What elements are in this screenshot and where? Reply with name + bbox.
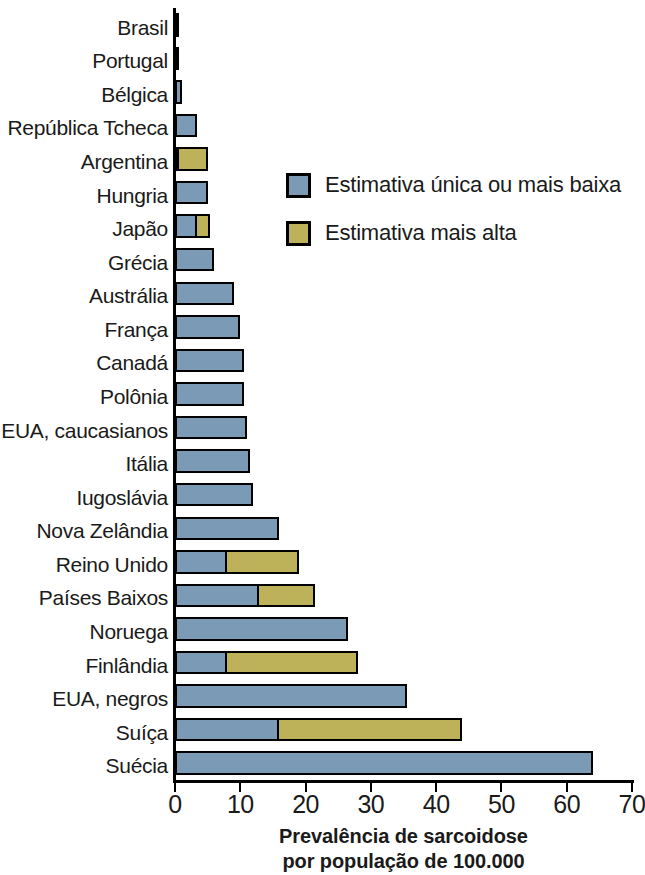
category-label: Nova Zelândia <box>0 520 168 541</box>
category-label: Portugal <box>0 50 168 71</box>
category-label: República Tcheca <box>0 117 168 138</box>
bar-row: França <box>0 310 638 344</box>
bar-row: Suíça <box>0 713 638 747</box>
x-axis-tick-label: 0 <box>168 790 181 819</box>
category-label: Grécia <box>0 252 168 273</box>
x-axis-tick-label: 20 <box>292 790 319 819</box>
bar-stack <box>175 718 462 741</box>
category-label: Noruega <box>0 621 168 642</box>
x-axis-tick-label: 40 <box>423 790 450 819</box>
bar-segment-low-estimate <box>175 416 247 439</box>
bar-row: Nova Zelândia <box>0 511 638 545</box>
bar-segment-low-estimate <box>175 315 240 338</box>
bar-segment-low-estimate <box>175 248 214 271</box>
bar-row: Suécia <box>0 746 638 780</box>
bar-row: EUA, negros <box>0 679 638 713</box>
bar-row: Austrália <box>0 277 638 311</box>
legend-swatch-low-estimate-icon <box>286 173 311 198</box>
bar-stack <box>175 282 234 305</box>
bar-row: Bélgica <box>0 75 638 109</box>
category-label: EUA, caucasianos <box>0 420 168 441</box>
legend-item-high-estimate: Estimativa mais alta <box>286 220 621 246</box>
category-label: Países Baixos <box>0 587 168 608</box>
bar-segment-low-estimate <box>175 651 227 674</box>
bar-row: República Tcheca <box>0 109 638 143</box>
bar-row: EUA, caucasianos <box>0 411 638 445</box>
x-axis-tick-label: 70 <box>619 790 645 819</box>
bar-row: Iugoslávia <box>0 478 638 512</box>
category-label: Reino Unido <box>0 554 168 575</box>
category-label: Hungria <box>0 185 168 206</box>
category-label: Suécia <box>0 755 168 776</box>
category-label: Canadá <box>0 352 168 373</box>
bar-row: Países Baixos <box>0 579 638 613</box>
bar-segment-low-estimate <box>175 114 197 137</box>
bar-segment-low-estimate <box>175 449 250 472</box>
category-label: Finlândia <box>0 655 168 676</box>
bar-segment-low-estimate <box>175 181 208 204</box>
x-axis-title-line-1: Prevalência de sarcoidose <box>175 824 632 849</box>
bar-stack <box>175 349 244 372</box>
x-axis-title: Prevalência de sarcoidose por população … <box>175 824 632 874</box>
bar-row: Brasil <box>0 8 638 42</box>
bar-row: Noruega <box>0 612 638 646</box>
bar-segment-low-estimate <box>175 617 348 640</box>
bar-segment-low-estimate <box>175 517 279 540</box>
bar-row: Canadá <box>0 344 638 378</box>
bar-stack <box>175 181 208 204</box>
bar-stack <box>175 449 250 472</box>
bar-stack <box>175 550 299 573</box>
bar-stack <box>175 416 247 439</box>
bar-segment-low-estimate <box>175 483 253 506</box>
bar-stack <box>175 751 593 774</box>
bar-stack <box>175 315 240 338</box>
bar-stack <box>175 114 197 137</box>
bar-segment-high-estimate <box>177 147 208 170</box>
bar-stack <box>175 584 315 607</box>
category-label: EUA, negros <box>0 688 168 709</box>
bar-row: Reino Unido <box>0 545 638 579</box>
x-axis-title-line-2: por população de 100.000 <box>175 849 632 874</box>
bar-segment-low-estimate <box>175 382 244 405</box>
bar-row: Portugal <box>0 42 638 76</box>
bar-segment-low-estimate <box>175 282 234 305</box>
bar-stack <box>175 483 253 506</box>
bar-segment-high-estimate <box>277 718 462 741</box>
bar-segment-low-estimate <box>175 550 227 573</box>
bar-segment-low-estimate <box>175 718 279 741</box>
bar-stack <box>175 617 348 640</box>
x-axis-tick-label: 30 <box>357 790 384 819</box>
x-axis-tick-label: 10 <box>227 790 254 819</box>
bar-segment-low-estimate <box>175 751 593 774</box>
legend-item-low-estimate: Estimativa única ou mais baixa <box>286 172 621 198</box>
category-label: França <box>0 319 168 340</box>
bar-segment-high-estimate <box>195 214 209 237</box>
bar-segment-low-estimate <box>175 584 260 607</box>
legend-label-high-estimate: Estimativa mais alta <box>325 220 517 246</box>
bar-segment-low-estimate <box>175 349 244 372</box>
category-label: Austrália <box>0 285 168 306</box>
bar-stack <box>175 684 407 707</box>
bar-stack <box>175 517 279 540</box>
category-label: Brasil <box>0 17 168 38</box>
category-label: Itália <box>0 453 168 474</box>
category-label: Bélgica <box>0 84 168 105</box>
bar-segment-low-estimate <box>175 684 407 707</box>
category-label: Argentina <box>0 151 168 172</box>
bar-stack <box>175 651 358 674</box>
bar-segment-high-estimate <box>225 550 299 573</box>
category-label: Suíça <box>0 722 168 743</box>
bar-stack <box>175 248 214 271</box>
category-label: Japão <box>0 218 168 239</box>
legend-swatch-high-estimate-icon <box>286 221 311 246</box>
bar-row: Itália <box>0 444 638 478</box>
x-axis-tick-label: 50 <box>488 790 515 819</box>
bar-row: Polônia <box>0 377 638 411</box>
x-axis-tick-label: 60 <box>553 790 580 819</box>
bar-row: Argentina <box>0 142 638 176</box>
bar-stack <box>175 382 244 405</box>
bar-stack <box>175 147 208 170</box>
legend-label-low-estimate: Estimativa única ou mais baixa <box>325 172 621 198</box>
bar-row: Finlândia <box>0 646 638 680</box>
